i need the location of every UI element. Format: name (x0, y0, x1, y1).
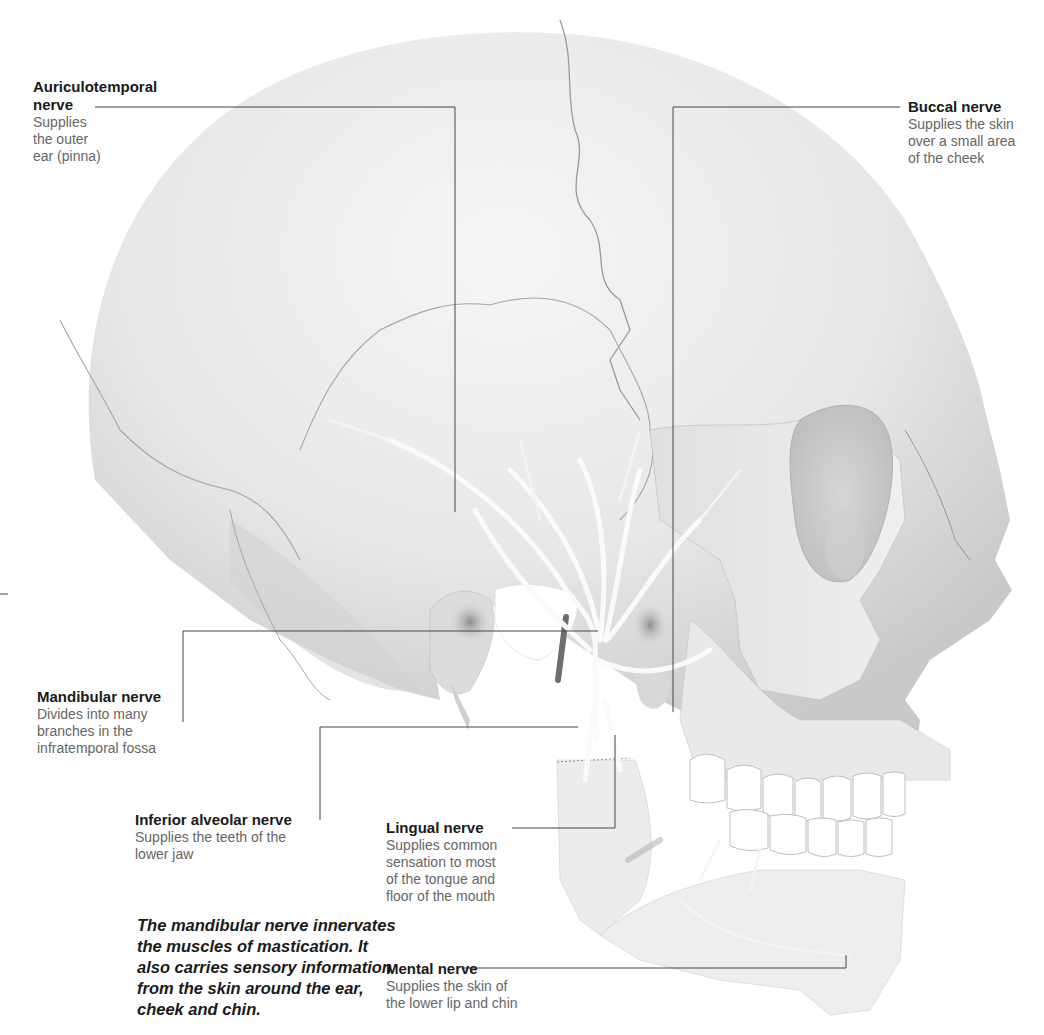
ear-canal (448, 600, 492, 644)
label-title: Lingual nerve (386, 819, 526, 837)
label-title: Auriculotemporal (33, 78, 173, 96)
label-inferior-alveolar-nerve: Inferior alveolar nerve Supplies the tee… (135, 811, 335, 863)
label-mandibular-nerve: Mandibular nerve Divides into many branc… (37, 688, 217, 757)
figure-caption: The mandibular nerve innervates the musc… (137, 915, 397, 1020)
leader-inferior-alveolar (320, 727, 578, 820)
label-buccal-nerve: Buccal nerve Supplies the skin over a sm… (908, 98, 1044, 167)
anatomy-figure: Auriculotemporal nerve Supplies the oute… (0, 0, 1044, 1035)
label-title: Mandibular nerve (37, 688, 217, 706)
mandible-body (600, 870, 905, 1015)
label-title: Buccal nerve (908, 98, 1044, 116)
label-auriculotemporal-nerve: Auriculotemporal nerve Supplies the oute… (33, 78, 173, 165)
label-lingual-nerve: Lingual nerve Supplies common sensation … (386, 819, 526, 905)
label-title: Mental nerve (386, 960, 546, 978)
label-mental-nerve: Mental nerve Supplies the skin of the lo… (386, 960, 546, 1012)
label-title: Inferior alveolar nerve (135, 811, 335, 829)
mandible-ramus (557, 760, 651, 935)
cranium-shape (89, 32, 1012, 770)
label-title: nerve (33, 96, 173, 114)
